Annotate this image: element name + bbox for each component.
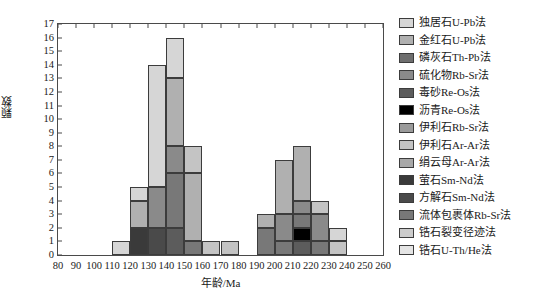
histogram-bar[interactable] — [275, 160, 293, 255]
y-tick-label: 11 — [44, 100, 58, 111]
bar-segment[interactable] — [166, 173, 184, 227]
legend-item[interactable]: 锆石裂变径迹法 — [399, 224, 549, 242]
x-tick-mark — [383, 24, 384, 28]
x-tick-mark — [94, 24, 95, 28]
bar-segment[interactable] — [329, 241, 347, 255]
legend-item[interactable]: 毒砂Re-Os法 — [399, 84, 549, 102]
bar-segment[interactable] — [148, 187, 166, 228]
bar-segment[interactable] — [293, 201, 311, 215]
x-tick-label: 220 — [303, 255, 319, 272]
bar-segment[interactable] — [257, 228, 275, 255]
legend-item[interactable]: 绢云母Ar-Ar法 — [399, 154, 549, 172]
bar-segment[interactable] — [329, 228, 347, 242]
x-tick-label: 200 — [267, 255, 283, 272]
bar-segment[interactable] — [166, 38, 184, 79]
bar-segment[interactable] — [148, 228, 166, 255]
chart-root: 颗数 01234567891011121314151617 8090100110… — [0, 0, 551, 302]
x-tick-mark — [346, 24, 347, 28]
legend-item[interactable]: 流体包裹体Rb-Sr法 — [399, 207, 549, 225]
legend-label: 方解石Sm-Nd法 — [419, 192, 495, 203]
legend-swatch — [399, 140, 414, 150]
bar-segment[interactable] — [130, 228, 148, 255]
x-tick-label: 210 — [285, 255, 301, 272]
legend-swatch — [399, 18, 414, 28]
x-tick-label: 180 — [231, 255, 247, 272]
x-tick-label: 90 — [71, 255, 82, 272]
x-tick-mark — [112, 24, 113, 28]
y-tick-mark — [58, 200, 62, 201]
bar-segment[interactable] — [130, 201, 148, 228]
x-tick-mark — [58, 24, 59, 28]
bar-segment[interactable] — [275, 241, 293, 255]
plot-area: 颗数 01234567891011121314151617 8090100110… — [0, 0, 392, 302]
y-tick-label: 14 — [44, 60, 59, 71]
bar-segment[interactable] — [275, 160, 293, 214]
chart-legend: 独居石U-Pb法金红石U-Pb法磷灰石Th-Pb法硫化物Rb-Sr法毒砂Re-O… — [399, 14, 549, 259]
bar-segment[interactable] — [202, 241, 220, 255]
legend-label: 绢云母Ar-Ar法 — [419, 157, 490, 168]
histogram-bar[interactable] — [130, 187, 148, 255]
bar-segment[interactable] — [257, 214, 275, 228]
bar-segment[interactable] — [293, 241, 311, 255]
bar-segment[interactable] — [293, 228, 311, 242]
y-tick-mark — [58, 91, 62, 92]
histogram-bar[interactable] — [184, 146, 202, 255]
legend-swatch — [399, 245, 414, 255]
legend-item[interactable]: 伊利石Ar-Ar法 — [399, 137, 549, 155]
x-tick-label: 110 — [104, 255, 119, 272]
bar-segment[interactable] — [293, 146, 311, 200]
bar-segment[interactable] — [221, 241, 239, 255]
legend-item[interactable]: 伊利石Rb-Sr法 — [399, 119, 549, 137]
legend-label: 伊利石Ar-Ar法 — [419, 140, 490, 151]
bar-segment[interactable] — [311, 214, 329, 241]
legend-item[interactable]: 锆石U-Th/He法 — [399, 242, 549, 260]
bar-segment[interactable] — [311, 241, 329, 255]
histogram-bar[interactable] — [112, 241, 130, 255]
histogram-bar[interactable] — [311, 201, 329, 255]
bar-segment[interactable] — [275, 214, 293, 241]
legend-swatch — [399, 175, 414, 185]
histogram-bar[interactable] — [329, 228, 347, 255]
legend-label: 毒砂Re-Os法 — [419, 87, 480, 98]
histogram-bar[interactable] — [221, 241, 239, 255]
y-tick-mark — [58, 241, 62, 242]
x-tick-label: 140 — [158, 255, 174, 272]
legend-swatch — [399, 228, 414, 238]
bar-segment[interactable] — [184, 173, 202, 241]
x-tick-mark — [328, 24, 329, 28]
histogram-bar[interactable] — [166, 38, 184, 255]
x-tick-label: 100 — [86, 255, 102, 272]
bar-segment[interactable] — [166, 228, 184, 255]
x-tick-mark — [256, 24, 257, 28]
y-tick-mark — [58, 173, 62, 174]
x-tick-mark — [184, 24, 185, 28]
bar-segment[interactable] — [311, 201, 329, 215]
legend-item[interactable]: 磷灰石Th-Pb法 — [399, 49, 549, 67]
histogram-bar[interactable] — [293, 146, 311, 255]
legend-label: 锆石U-Th/He法 — [419, 245, 492, 256]
y-tick-mark — [58, 78, 62, 79]
y-tick-mark — [58, 24, 62, 25]
y-tick-label: 10 — [44, 114, 59, 125]
bar-segment[interactable] — [130, 187, 148, 201]
legend-item[interactable]: 金红石U-Pb法 — [399, 32, 549, 50]
legend-item[interactable]: 沥青Re-Os法 — [399, 102, 549, 120]
histogram-bar[interactable] — [148, 65, 166, 255]
bar-segment[interactable] — [148, 65, 166, 187]
bar-segment[interactable] — [293, 214, 311, 228]
bar-segment[interactable] — [184, 241, 202, 255]
y-tick-label: 16 — [44, 32, 59, 43]
legend-item[interactable]: 方解石Sm-Nd法 — [399, 189, 549, 207]
y-tick-label: 5 — [49, 182, 58, 193]
legend-item[interactable]: 独居石U-Pb法 — [399, 14, 549, 32]
legend-item[interactable]: 萤石Sm-Nd法 — [399, 172, 549, 190]
y-tick-mark — [58, 159, 62, 160]
histogram-bar[interactable] — [257, 214, 275, 255]
bar-segment[interactable] — [112, 241, 130, 255]
bar-segment[interactable] — [184, 146, 202, 173]
legend-item[interactable]: 硫化物Rb-Sr法 — [399, 67, 549, 85]
bar-segment[interactable] — [166, 78, 184, 146]
histogram-bar[interactable] — [202, 241, 220, 255]
bar-segment[interactable] — [166, 146, 184, 173]
y-tick-mark — [58, 227, 62, 228]
